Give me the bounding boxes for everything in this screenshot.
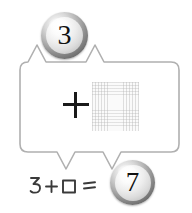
bottom-sphere-face: 7	[115, 165, 151, 201]
handwritten-equation	[29, 172, 105, 198]
top-sphere-value: 3	[57, 21, 71, 49]
bottom-number-sphere[interactable]: 7	[110, 160, 155, 205]
handwritten-equation-glyphs	[29, 172, 105, 198]
plus-operator-icon	[63, 92, 89, 118]
plus-vertical-bar	[74, 92, 77, 118]
top-sphere-face: 3	[46, 17, 84, 55]
grid-square-icon	[92, 82, 139, 131]
top-number-sphere[interactable]: 3	[41, 12, 88, 59]
bottom-sphere-value: 7	[126, 169, 140, 196]
worksheet-canvas: 3 7 3+□=	[0, 0, 192, 213]
